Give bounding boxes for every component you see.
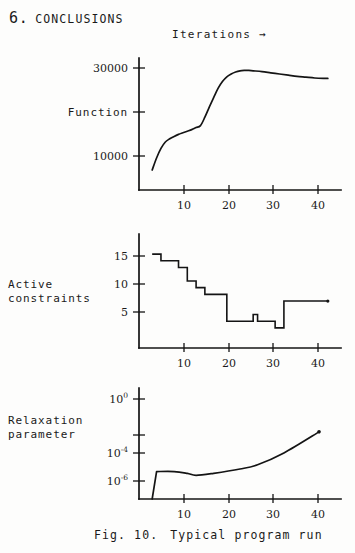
data-curve-relaxation [152, 432, 319, 499]
y-tick-exponent-1e0: 0 [123, 391, 128, 400]
chart-active-constraints: 15 10 5 Active constraints 10 20 30 40 [0, 228, 355, 393]
y-tick-mantissa-1e-6: 10 [107, 475, 121, 488]
data-curve-active-constraints [152, 254, 328, 328]
chart-function: 30000 10000 Function 10 20 30 40 [0, 52, 355, 217]
section-number: 6. [9, 9, 28, 27]
x-tick-label-40-chart1: 40 [311, 199, 325, 212]
data-curve-function [152, 70, 328, 170]
y-tick-exponent-1e-4: -4 [121, 445, 129, 454]
y-tick-mantissa-1e-4: 10 [107, 447, 121, 460]
x-tick-label-10-chart2: 10 [177, 357, 191, 370]
y-tick-label-1e-4: 10-4 [107, 445, 129, 460]
y-tick-label-15: 15 [114, 250, 128, 263]
x-tick-label-20-chart2: 20 [222, 357, 236, 370]
series-label-parameter: parameter [8, 428, 76, 441]
y-tick-label-30000: 30000 [93, 62, 128, 75]
y-tick-label-5: 5 [121, 306, 128, 319]
y-tick-mantissa-1e0: 10 [109, 393, 123, 406]
x-tick-label-30-chart1: 30 [266, 199, 280, 212]
x-tick-label-30-chart2: 30 [266, 357, 280, 370]
series-label-active: Active [8, 278, 53, 291]
series-label-function: Function [68, 106, 128, 119]
x-tick-label-40-chart3: 40 [311, 508, 325, 521]
chart-relaxation-parameter: 100 10-4 10-6 Relaxation parameter 10 20… [0, 386, 355, 551]
figure-caption: Fig. 10.Typical program run [94, 528, 323, 542]
section-title: CONCLUSIONS [35, 12, 123, 26]
x-tick-label-10-chart3: 10 [177, 508, 191, 521]
y-tick-label-10: 10 [114, 278, 128, 291]
series-label-relaxation: Relaxation [8, 414, 83, 427]
document-page: 6.CONCLUSIONS Iterations → 30000 10000 F… [0, 0, 355, 553]
x-tick-label-20-chart3: 20 [222, 508, 236, 521]
x-tick-label-20-chart1: 20 [222, 199, 236, 212]
x-axis-caption: Iterations → [172, 28, 267, 41]
y-tick-exponent-1e-6: -6 [121, 473, 129, 482]
x-tick-label-40-chart2: 40 [311, 357, 325, 370]
series-label-constraints: constraints [8, 292, 91, 305]
y-tick-label-1e0: 100 [109, 391, 128, 406]
y-tick-label-1e-6: 10-6 [107, 473, 129, 488]
data-endpoint-active-constraints [326, 299, 329, 302]
figure-number: Fig. 10. [94, 528, 158, 542]
data-endpoint-relaxation [317, 430, 321, 434]
figure-caption-text: Typical program run [170, 528, 322, 542]
y-tick-label-10000: 10000 [93, 150, 128, 163]
x-tick-label-10-chart1: 10 [177, 199, 191, 212]
section-heading: 6.CONCLUSIONS [9, 9, 124, 27]
x-tick-label-30-chart3: 30 [266, 508, 280, 521]
